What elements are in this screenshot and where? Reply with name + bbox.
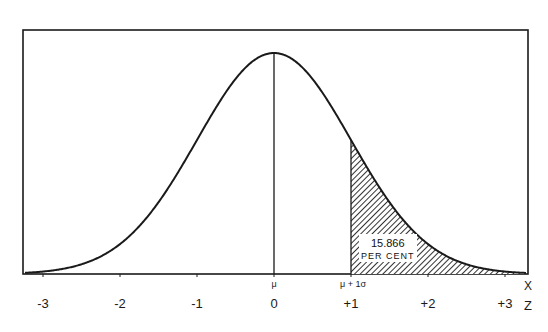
- plot-frame: [23, 30, 528, 274]
- mu-plus-sigma-label: μ + 1σ: [340, 279, 366, 289]
- x-axis-name: X: [524, 279, 532, 293]
- z-tick-label: 0: [270, 296, 277, 311]
- z-tick-label: -2: [114, 296, 126, 311]
- normal-curve: [25, 53, 526, 273]
- z-tick-label: -1: [191, 296, 203, 311]
- area-percent-value: 15.866: [369, 237, 407, 250]
- area-percent-unit: PER CENT: [359, 251, 417, 262]
- z-axis-name: Z: [524, 298, 532, 313]
- shaded-area-label: 15.866 PER CENT: [359, 234, 417, 262]
- z-tick-label: -3: [37, 296, 49, 311]
- z-tick-label: +3: [498, 296, 513, 311]
- mu-label: μ: [271, 279, 276, 289]
- z-tick-label: +2: [421, 296, 436, 311]
- z-tick-label: +1: [344, 296, 359, 311]
